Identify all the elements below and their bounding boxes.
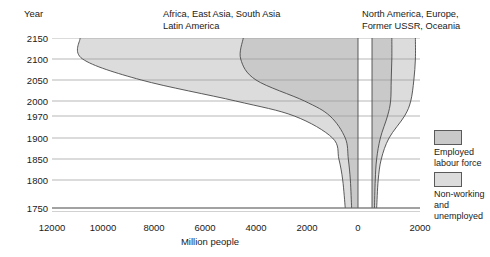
legend-label-nonworking-line2: and — [434, 200, 485, 211]
y-tick-1800: 1800 — [14, 175, 48, 186]
x-tick-right-2000: 2000 — [409, 222, 430, 233]
y-axis-tick-labels: 215021002050200019701900185018001750 — [14, 0, 48, 257]
left-panel-title-line1: Africa, East Asia, South Asia — [163, 9, 280, 21]
x-tick-8000: 8000 — [143, 222, 164, 233]
x-tick-10000: 10000 — [90, 222, 116, 233]
x-tick-12000: 12000 — [39, 222, 65, 233]
chart-root: Year 21502100205020001970190018501800175… — [0, 0, 490, 257]
legend-label-employed: Employed labour force — [434, 147, 482, 169]
plot-area — [52, 38, 420, 212]
legend-swatch-employed — [434, 130, 462, 145]
y-tick-1850: 1850 — [14, 154, 48, 165]
right-panel-title: North America, Europe, Former USSR, Ocea… — [362, 9, 460, 32]
y-tick-1970: 1970 — [14, 111, 48, 122]
x-tick-6000: 6000 — [194, 222, 215, 233]
x-tick-4000: 4000 — [245, 222, 266, 233]
legend-swatch-nonworking — [434, 172, 462, 187]
y-tick-2000: 2000 — [14, 96, 48, 107]
legend-label-nonworking-line1: Non-working — [434, 189, 485, 200]
y-tick-1900: 1900 — [14, 133, 48, 144]
y-tick-2100: 2100 — [14, 54, 48, 65]
y-tick-2150: 2150 — [14, 33, 48, 44]
legend-label-nonworking: Non-working and unemployed — [434, 189, 485, 221]
right-panel-title-line2: Former USSR, Oceania — [362, 21, 460, 33]
y-tick-1750: 1750 — [14, 203, 48, 214]
left-panel-title-line2: Latin America — [163, 21, 280, 33]
x-tick-0: 0 — [355, 222, 360, 233]
legend-label-nonworking-line3: unemployed — [434, 211, 485, 222]
x-axis-title: Million people — [0, 236, 420, 247]
legend-label-employed-line2: labour force — [434, 158, 482, 169]
legend-label-employed-line1: Employed — [434, 147, 482, 158]
y-tick-2050: 2050 — [14, 75, 48, 86]
right-panel-title-line1: North America, Europe, — [362, 9, 460, 21]
left-panel-title: Africa, East Asia, South Asia Latin Amer… — [163, 9, 280, 32]
x-tick-2000: 2000 — [296, 222, 317, 233]
